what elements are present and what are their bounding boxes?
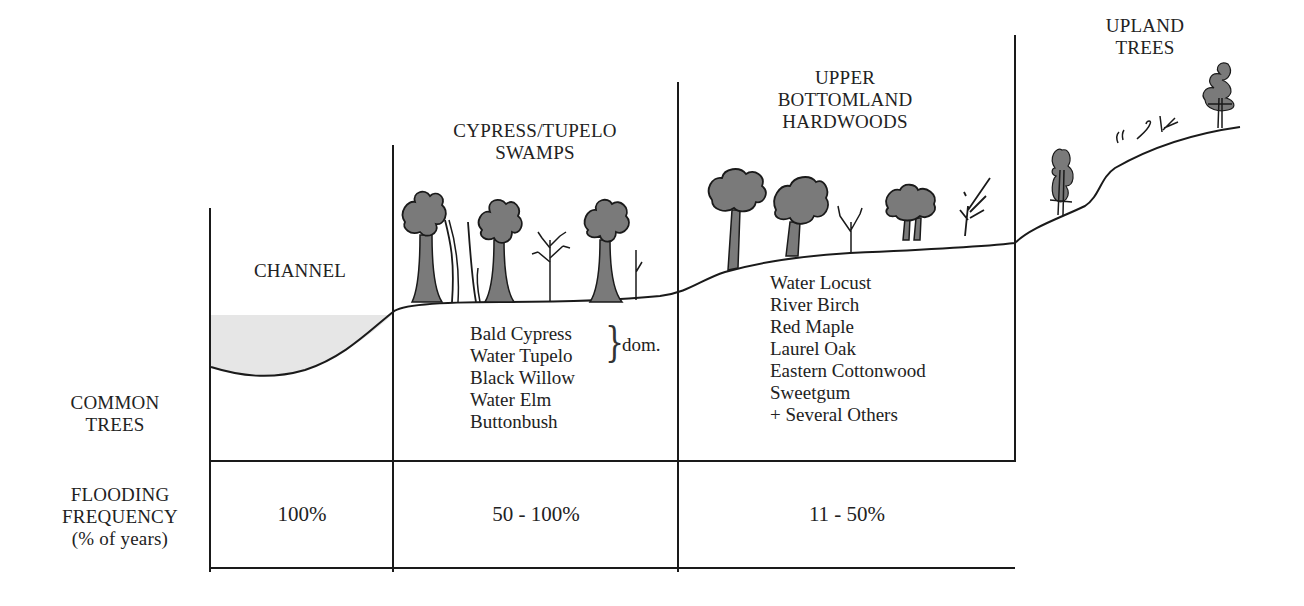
row-label-line: FREQUENCY	[40, 506, 200, 528]
hardwood-tree-icon	[886, 185, 935, 240]
title-line: HARDWOODS	[700, 111, 990, 133]
upland-conifer-icon	[1050, 149, 1073, 215]
dead-snag-icon	[445, 220, 480, 302]
title-line: CYPRESS/TUPELO	[400, 120, 670, 142]
cypress-tree-icon	[585, 200, 629, 302]
buttonbush-stem-icon	[636, 250, 642, 300]
title-line: UPPER	[700, 67, 990, 89]
tree-list-item: Laurel Oak	[770, 338, 926, 360]
title-line: SWAMPS	[400, 142, 670, 164]
upland-pine-icon	[1203, 63, 1234, 128]
tree-list-item: Buttonbush	[470, 411, 575, 433]
zone-title-upland: UPLAND TREES	[1070, 15, 1220, 59]
row-label-flooding-frequency: FLOODING FREQUENCY (% of years)	[40, 484, 200, 550]
tree-list-item: Sweetgum	[770, 382, 926, 404]
zone-title-channel: CHANNEL	[225, 260, 375, 282]
hardwood-tree-icon	[774, 177, 828, 256]
dominant-label: dom.	[622, 334, 661, 356]
tree-list-item: Red Maple	[770, 316, 926, 338]
tree-list-item: Black Willow	[470, 367, 575, 389]
zone-title-cypress-tupelo: CYPRESS/TUPELO SWAMPS	[400, 120, 670, 164]
flooding-value-upper-bottomland: 11 - 50%	[680, 502, 1014, 527]
flooding-value-channel: 100%	[212, 502, 392, 527]
hardwood-tree-icon	[709, 169, 766, 270]
row-label-line: (% of years)	[40, 528, 200, 550]
tree-list-upper-bottomland: Water Locust River Birch Red Maple Laure…	[770, 272, 926, 426]
title-line: BOTTOMLAND	[700, 89, 990, 111]
tupelo-tree-icon	[479, 200, 522, 302]
title-line: UPLAND	[1070, 15, 1220, 37]
cypress-tree-icon	[403, 192, 446, 302]
tree-list-item: + Several Others	[770, 404, 926, 426]
upland-grass-icon	[1117, 116, 1178, 143]
row-label-line: TREES	[40, 414, 190, 436]
row-label-line: FLOODING	[40, 484, 200, 506]
tree-list-item: Water Elm	[470, 389, 575, 411]
zone-title-upper-bottomland: UPPER BOTTOMLAND HARDWOODS	[700, 67, 990, 133]
flooding-value-cypress-tupelo: 50 - 100%	[395, 502, 677, 527]
row-label-common-trees: COMMON TREES	[40, 392, 190, 436]
tree-list-cypress-tupelo: Bald Cypress Water Tupelo Black Willow W…	[470, 323, 575, 433]
shrub-icon	[960, 178, 990, 236]
birch-sapling-icon	[838, 206, 862, 252]
title-line: TREES	[1070, 37, 1220, 59]
tree-list-item: Water Locust	[770, 272, 926, 294]
title-line: CHANNEL	[225, 260, 375, 282]
row-label-line: COMMON	[40, 392, 190, 414]
tree-list-item: Eastern Cottonwood	[770, 360, 926, 382]
tree-list-item: River Birch	[770, 294, 926, 316]
ground-profile	[211, 127, 1240, 376]
tree-list-item: Bald Cypress	[470, 323, 575, 345]
tree-list-item: Water Tupelo	[470, 345, 575, 367]
channel-water	[211, 315, 392, 376]
willow-sapling-icon	[532, 232, 570, 302]
